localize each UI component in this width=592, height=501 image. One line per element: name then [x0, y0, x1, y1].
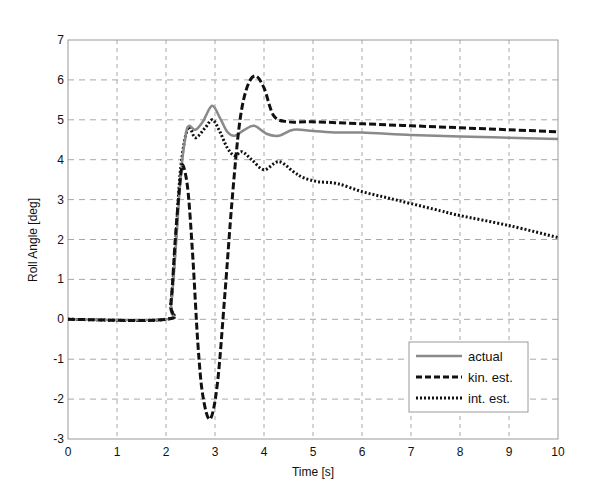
x-tick-label: 6 — [359, 445, 366, 459]
x-tick-label: 7 — [408, 445, 415, 459]
x-tick-label: 1 — [114, 445, 121, 459]
x-tick-label: 10 — [551, 445, 565, 459]
legend-label-int-est: int. est. — [468, 391, 510, 406]
y-tick-label: -3 — [53, 432, 64, 446]
x-tick-label: 4 — [261, 445, 268, 459]
y-tick-label: 0 — [57, 312, 64, 326]
x-axis-label: Time [s] — [292, 465, 334, 479]
y-axis-label: Roll Angle [deg] — [26, 198, 40, 282]
legend-label-kin-est: kin. est. — [468, 370, 513, 385]
x-tick-label: 9 — [506, 445, 513, 459]
roll-angle-chart: 012345678910 -3-2-101234567 Time [s] Rol… — [0, 0, 592, 501]
x-tick-label: 3 — [212, 445, 219, 459]
y-tick-label: 3 — [57, 193, 64, 207]
y-tick-label: 1 — [57, 272, 64, 286]
x-tick-label: 5 — [310, 445, 317, 459]
y-tick-label: 7 — [57, 33, 64, 47]
chart-background — [0, 0, 592, 501]
y-tick-label: -2 — [53, 392, 64, 406]
y-tick-label: 6 — [57, 73, 64, 87]
legend: actual kin. est. int. est. — [409, 342, 528, 412]
x-tick-label: 8 — [457, 445, 464, 459]
x-tick-label: 2 — [163, 445, 170, 459]
y-tick-label: 2 — [57, 233, 64, 247]
y-tick-label: -1 — [53, 352, 64, 366]
legend-label-actual: actual — [468, 349, 503, 364]
y-tick-label: 5 — [57, 113, 64, 127]
y-tick-label: 4 — [57, 153, 64, 167]
x-tick-label: 0 — [65, 445, 72, 459]
